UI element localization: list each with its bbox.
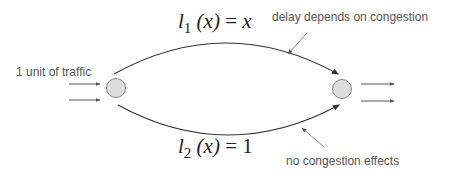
- top-edge-annotation: delay depends on congestion: [272, 10, 428, 24]
- top-cost-subscript: 1: [184, 20, 192, 36]
- top-cost-arg: (x): [197, 9, 220, 33]
- network-diagram: 1 unit of traffic l1 (x) = x l2 (x) = 1 …: [0, 0, 455, 173]
- top-cost-rhs: x: [241, 9, 252, 33]
- edge-top: [114, 43, 338, 74]
- bottom-cost-arg: (x): [197, 134, 220, 158]
- bottom-cost-rhs: 1: [242, 134, 253, 158]
- incoming-traffic-arrows: [69, 84, 100, 100]
- top-annotation-pointer: [288, 33, 307, 54]
- bottom-annotation-pointer: [302, 128, 324, 147]
- bottom-cost-subscript: 2: [184, 145, 192, 161]
- sink-node: [333, 80, 352, 99]
- source-label: 1 unit of traffic: [16, 65, 91, 79]
- edge-bottom: [118, 105, 339, 135]
- bottom-cost-function: l2 (x) = 1: [178, 134, 253, 161]
- bottom-cost-equals: =: [220, 134, 242, 158]
- outgoing-traffic-arrows: [361, 84, 394, 101]
- source-node: [107, 79, 126, 98]
- top-cost-function: l1 (x) = x: [178, 9, 252, 36]
- top-cost-equals: =: [220, 9, 242, 33]
- bottom-edge-annotation: no congestion effects: [286, 154, 399, 168]
